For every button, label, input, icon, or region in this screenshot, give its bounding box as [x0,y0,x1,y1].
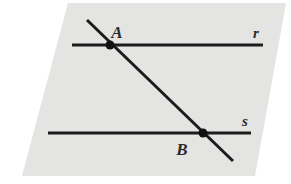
geometry-figure: A B r s [0,0,291,184]
point-a-label: A [110,23,122,42]
point-b-marker [199,129,208,138]
line-r-label: r [253,25,259,41]
diagram-canvas: A B r s [0,0,291,184]
plane-parallelogram [22,3,286,176]
point-b-label: B [175,140,187,159]
line-s-label: s [241,113,248,129]
